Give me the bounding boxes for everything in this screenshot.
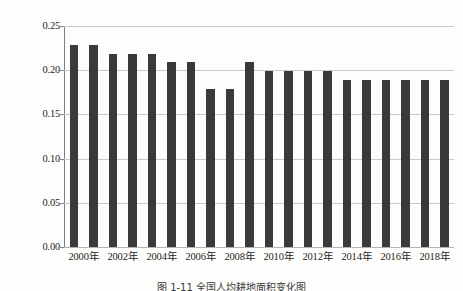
- y-axis-tick-mark: [58, 247, 64, 248]
- y-axis-tick-label: 0.20: [28, 64, 60, 75]
- bar: [89, 45, 98, 247]
- y-axis-tick-mark: [58, 70, 64, 71]
- bar: [265, 71, 274, 247]
- y-axis-tick-mark: [58, 114, 64, 115]
- x-axis-tick-label: 2000年: [65, 250, 103, 264]
- bar: [343, 80, 352, 247]
- gridline: [64, 247, 454, 248]
- bar: [226, 89, 235, 247]
- x-axis-tick-label: 2016年: [377, 250, 415, 264]
- bar: [109, 54, 118, 247]
- x-axis-tick-label: 2010年: [260, 250, 298, 264]
- bar: [362, 80, 371, 247]
- x-axis-tick-label: 2004年: [143, 250, 181, 264]
- bar: [440, 80, 449, 247]
- y-axis-tick-mark: [58, 159, 64, 160]
- bar: [206, 89, 215, 247]
- x-axis-tick-labels: 2000年2002年2004年2006年2008年2010年2012年2014年…: [64, 250, 454, 268]
- bar: [167, 62, 176, 247]
- y-axis-tick-label: 0.25: [28, 20, 60, 31]
- x-axis-tick-label: 2002年: [104, 250, 142, 264]
- y-axis-tick-mark: [58, 203, 64, 204]
- x-axis-tick-label: 2014年: [338, 250, 376, 264]
- x-axis-tick-label: 2018年: [416, 250, 454, 264]
- plot-area: [64, 26, 454, 247]
- bar: [421, 80, 430, 247]
- x-axis-tick-label: 2006年: [182, 250, 220, 264]
- bars-layer: [64, 26, 454, 247]
- bar-chart-figure: 公顷 0.000.050.100.150.200.25 2000年2002年20…: [0, 0, 463, 291]
- bar: [128, 54, 137, 247]
- bar: [401, 80, 410, 247]
- y-axis-tick-label: 0.00: [28, 241, 60, 252]
- bar: [382, 80, 391, 247]
- bar: [304, 71, 313, 247]
- y-axis-tick-labels: 0.000.050.100.150.200.25: [28, 20, 60, 252]
- bar: [148, 54, 157, 247]
- y-axis-tick-label: 0.10: [28, 153, 60, 164]
- bar: [284, 71, 293, 247]
- y-axis-tick-label: 0.05: [28, 197, 60, 208]
- bar: [70, 45, 79, 247]
- x-axis-tick-label: 2012年: [299, 250, 337, 264]
- bar: [245, 62, 254, 247]
- x-axis-tick-label: 2008年: [221, 250, 259, 264]
- bar: [187, 62, 196, 247]
- figure-caption: 图 1‑11 全国人均耕地面积变化图: [0, 281, 463, 291]
- y-axis-tick-mark: [58, 26, 64, 27]
- y-axis-tick-label: 0.15: [28, 108, 60, 119]
- bar: [323, 71, 332, 247]
